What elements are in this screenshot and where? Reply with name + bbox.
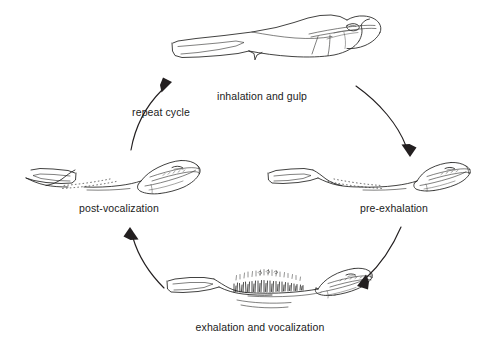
- vocalization-cycle-diagram: inhalation and gulp pre-exhalation exhal…: [0, 0, 484, 337]
- arrow-label-repeat-cycle: repeat cycle: [132, 107, 190, 118]
- stage-label-pre-exhalation: pre-exhalation: [360, 203, 428, 214]
- figure-inhalation-and-gulp: [172, 15, 381, 60]
- diagram-illustration-canvas: [0, 0, 484, 337]
- arrow-inhalation-to-pre-exhalation: [356, 86, 417, 157]
- arrow-pre-exhalation-to-exhalation: [357, 227, 401, 290]
- arrow-exhalation-to-post-vocalization: [124, 227, 165, 288]
- stage-label-exhalation-and-vocalization: exhalation and vocalization: [196, 322, 325, 333]
- vocalization-vibration-marks: [234, 270, 303, 293]
- figure-pre-exhalation: [268, 162, 470, 191]
- figure-exhalation-and-vocalization: [167, 268, 372, 308]
- figure-post-vocalization: [26, 160, 200, 193]
- stage-label-inhalation-and-gulp: inhalation and gulp: [217, 91, 307, 102]
- stage-label-post-vocalization: post-vocalization: [79, 203, 159, 214]
